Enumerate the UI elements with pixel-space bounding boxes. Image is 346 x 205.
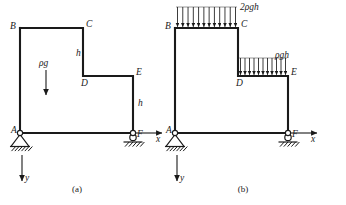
ground-hatch-stroke [133, 142, 137, 147]
dimension-label-E-F: h [138, 98, 143, 108]
y-axis-label: y [24, 173, 30, 183]
body-force-label: ρg [38, 58, 49, 68]
node-label-B: B [165, 21, 171, 31]
ground-hatch-stroke [136, 142, 140, 147]
node-label-D: D [80, 78, 88, 88]
node-label-F: F [136, 129, 143, 139]
node-label-C: C [241, 19, 248, 29]
node-label-B: B [10, 21, 16, 31]
node-label-C: C [86, 19, 93, 29]
frame-upper-profile [20, 28, 133, 133]
node-circle-F [285, 130, 290, 135]
node-label-A: A [10, 125, 17, 135]
ground-hatch-stroke [291, 142, 295, 147]
ground-hatch-stroke [295, 142, 299, 147]
pin-support-triangle [11, 135, 29, 147]
x-axis-label: x [310, 134, 316, 144]
ground-hatch-stroke [129, 142, 133, 147]
x-axis-label: x [155, 134, 161, 144]
node-circle-F [130, 130, 135, 135]
panel-caption-b: (b) [238, 184, 249, 194]
statics-figure-svg: ρghhxyABCDEF(a)2ρghρghxyABCDEF(b) [0, 0, 346, 205]
ground-hatch-stroke [280, 142, 284, 147]
node-label-D: D [235, 78, 243, 88]
ground-hatch-stroke [284, 142, 288, 147]
figure-container: ρghhxyABCDEF(a)2ρghρghxyABCDEF(b) [0, 0, 346, 205]
node-label-E: E [290, 67, 297, 77]
ground-hatch-stroke [140, 142, 144, 147]
load-on-BC-label: 2ρgh [240, 2, 259, 12]
node-circle-A [17, 130, 22, 135]
panel-caption-a: (a) [72, 184, 82, 194]
load-on-DE-label: ρgh [274, 50, 289, 60]
dimension-label-C-D: h [76, 48, 81, 58]
node-label-A: A [165, 125, 172, 135]
node-label-F: F [291, 129, 298, 139]
node-label-E: E [135, 67, 142, 77]
pin-support-triangle [166, 135, 184, 147]
y-axis-label: y [179, 173, 185, 183]
ground-hatch-stroke [288, 142, 292, 147]
frame-upper-profile [175, 28, 288, 133]
ground-hatch-stroke [125, 142, 129, 147]
node-circle-A [172, 130, 177, 135]
